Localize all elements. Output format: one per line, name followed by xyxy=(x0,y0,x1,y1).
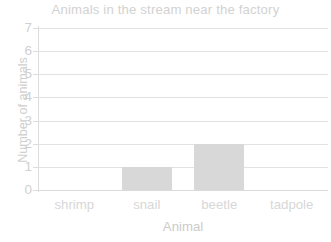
bar-snail xyxy=(122,167,172,190)
gridline xyxy=(38,51,328,52)
y-tick-mark xyxy=(33,144,38,145)
chart-title: Animals in the stream near the factory xyxy=(0,2,331,17)
bar-beetle xyxy=(194,144,244,190)
y-tick-mark xyxy=(33,97,38,98)
plot-area xyxy=(38,28,328,190)
y-tick-label: 7 xyxy=(10,21,32,35)
gridline xyxy=(38,74,328,75)
y-tick-mark xyxy=(33,74,38,75)
y-tick-label: 6 xyxy=(10,44,32,58)
y-tick-label: 1 xyxy=(10,160,32,174)
gridline xyxy=(38,167,328,168)
y-tick-label: 4 xyxy=(10,90,32,104)
y-tick-mark xyxy=(33,167,38,168)
y-tick-mark xyxy=(33,190,38,191)
y-tick-label: 3 xyxy=(10,114,32,128)
gridline xyxy=(38,144,328,145)
x-axis-label: Animal xyxy=(38,219,328,234)
gridline xyxy=(38,121,328,122)
y-tick-mark xyxy=(33,28,38,29)
gridline xyxy=(38,97,328,98)
bar-chart-figure: Animals in the stream near the factory N… xyxy=(0,0,331,242)
y-tick-label: 2 xyxy=(10,137,32,151)
x-tick-label-tadpole: tadpole xyxy=(242,197,331,212)
gridline xyxy=(38,28,328,29)
y-tick-mark xyxy=(33,121,38,122)
gridline xyxy=(38,190,328,191)
y-tick-mark xyxy=(33,51,38,52)
y-tick-label: 0 xyxy=(10,183,32,197)
y-tick-label: 5 xyxy=(10,67,32,81)
